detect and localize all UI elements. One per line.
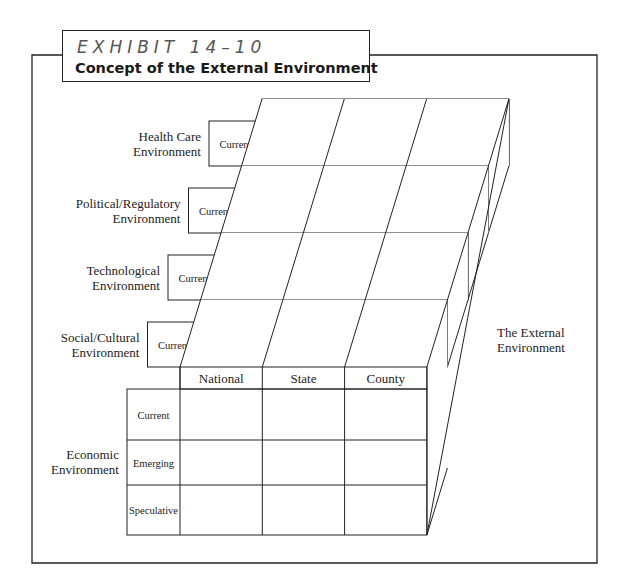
row-label-current: Current <box>137 410 169 421</box>
layer-name: Environment <box>133 144 201 159</box>
exhibit-number: EXHIBIT 14–10 <box>77 37 266 57</box>
environment-cube-diagram: CurrentNationalStateCountyHealth CareEnv… <box>51 99 565 535</box>
layer-name: Technological <box>87 263 161 278</box>
layer-name: Environment <box>72 345 140 360</box>
layer-name: Political/Regulatory <box>76 196 181 211</box>
layer-name: Environment <box>92 278 160 293</box>
layer-name: Environment <box>51 462 119 477</box>
exhibit-title-box: EXHIBIT 14–10 Concept of the External En… <box>62 30 370 82</box>
column-header-county: County <box>367 371 406 386</box>
column-header-state: State <box>290 371 316 386</box>
column-header-national: National <box>199 371 244 386</box>
layer-name: Health Care <box>139 129 202 144</box>
row-label-speculative: Speculative <box>129 505 178 516</box>
layer-name: Social/Cultural <box>61 330 140 345</box>
exhibit-title: Concept of the External Environment <box>75 60 378 76</box>
layer-name: Economic <box>66 447 119 462</box>
external-environment-label: The External <box>497 325 565 340</box>
exhibit-frame: CurrentNationalStateCountyHealth CareEnv… <box>0 0 619 588</box>
layer-name: Environment <box>113 211 181 226</box>
external-environment-label: Environment <box>497 340 565 355</box>
row-label-emerging: Emerging <box>133 458 175 469</box>
